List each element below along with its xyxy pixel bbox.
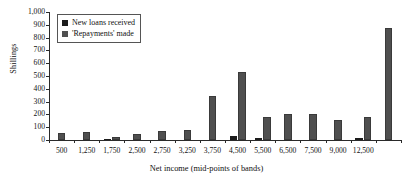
y-tick-label: 800 (5, 34, 45, 42)
x-tick (124, 140, 125, 143)
bar-repayments (184, 130, 192, 140)
x-tick (351, 140, 352, 143)
bar-repayments (133, 134, 141, 140)
x-axis-title: Net income (mid-points of bands) (0, 164, 413, 173)
bar-repayments (334, 120, 342, 140)
chart-legend: New loans received 'Repayments' made (57, 14, 141, 43)
x-tick-label: 2,750 (150, 147, 175, 155)
bar-repayments (158, 131, 166, 140)
bar-new-loans (255, 138, 263, 140)
x-tick-label: 3,750 (200, 147, 225, 155)
legend-swatch-icon (62, 20, 68, 26)
x-tick (49, 140, 50, 143)
legend-label: New loans received (72, 18, 135, 27)
y-tick-label: 0 (5, 136, 45, 144)
x-tick-label: 3,250 (175, 147, 200, 155)
bar-repayments (83, 132, 91, 140)
x-tick-label: 2,500 (124, 147, 149, 155)
bar-new-loans (355, 138, 363, 140)
bar-repayments (58, 133, 66, 140)
y-tick-label: 900 (5, 21, 45, 29)
y-tick-label: 100 (5, 123, 45, 131)
y-tick-label: 500 (5, 72, 45, 80)
bar-repayments (309, 114, 317, 140)
bar-repayments (385, 28, 393, 140)
x-tick (275, 140, 276, 143)
x-tick-label: 12,500 (351, 147, 376, 155)
y-tick-label: 400 (5, 85, 45, 93)
y-tick-label: 200 (5, 110, 45, 118)
bar-repayments (112, 137, 120, 140)
legend-item-new-loans: New loans received (62, 17, 135, 28)
x-tick-label: 7,500 (300, 147, 325, 155)
x-tick (326, 140, 327, 143)
y-tick-label: 1,000 (5, 8, 45, 16)
bar-repayments (284, 114, 292, 140)
bar-repayments (263, 117, 271, 140)
x-tick-label: 1,750 (99, 147, 124, 155)
x-tick (300, 140, 301, 143)
x-tick-label: 5,500 (250, 147, 275, 155)
y-tick-label: 300 (5, 98, 45, 106)
x-tick (200, 140, 201, 143)
legend-item-repayments: 'Repayments' made (62, 28, 135, 39)
bar-chart-figure: Shillings 01002003004005006007008009001,… (0, 0, 413, 184)
x-tick (99, 140, 100, 143)
bar-repayments (364, 117, 372, 140)
bar-repayments (209, 96, 217, 140)
x-tick-label: 1,250 (74, 147, 99, 155)
x-tick (401, 140, 402, 143)
x-tick (175, 140, 176, 143)
legend-label: 'Repayments' made (72, 29, 134, 38)
x-tick (150, 140, 151, 143)
legend-swatch-icon (62, 31, 68, 37)
bar-new-loans (230, 136, 238, 140)
x-tick (376, 140, 377, 143)
x-tick-label: 9,000 (326, 147, 351, 155)
bar-repayments (238, 72, 246, 140)
x-tick (225, 140, 226, 143)
x-tick-label: 500 (49, 147, 74, 155)
x-tick-label: 6,500 (275, 147, 300, 155)
x-tick-label: 4,500 (225, 147, 250, 155)
y-tick-label: 600 (5, 59, 45, 67)
y-tick-label: 700 (5, 46, 45, 54)
x-tick (250, 140, 251, 143)
x-tick (74, 140, 75, 143)
bar-new-loans (104, 139, 112, 140)
